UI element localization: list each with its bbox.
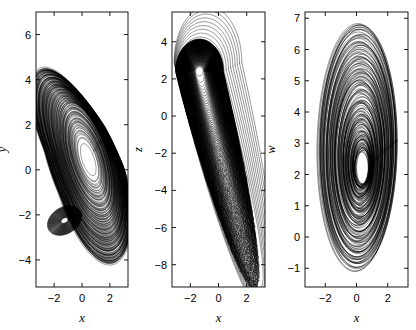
trajectory-segment (32, 70, 130, 260)
trajectory-segment (55, 97, 116, 223)
trajectory-segment (63, 107, 112, 210)
trajectory-segment (192, 62, 212, 115)
trajectory-segment (52, 210, 77, 232)
trajectory-segment (30, 67, 131, 265)
trajectory-segment (354, 150, 369, 187)
panel-xz-svg: −202420−2−4−6−8xz (0, 0, 416, 330)
trajectory-segment (331, 66, 386, 237)
trajectory-segment (176, 40, 259, 286)
trajectory-segment (324, 34, 396, 259)
trajectory-segment (188, 56, 224, 158)
trajectory-segment (343, 111, 377, 211)
trajectory-segment (344, 114, 375, 205)
trajectory-segment (59, 102, 114, 217)
trajectory-segment (348, 131, 371, 197)
trajectory-segment (177, 37, 265, 292)
trajectory-segment (70, 122, 106, 195)
panel-xz-x-axis-label: x (215, 311, 222, 325)
trajectory-segment (332, 68, 388, 241)
trajectory-segment (190, 60, 216, 132)
trajectory-segment (182, 48, 240, 219)
trajectory-segment (185, 52, 234, 195)
trajectory-segment (188, 57, 222, 154)
trajectory-segment (180, 45, 246, 240)
trajectory-segment (332, 71, 385, 235)
trajectory-segment (178, 43, 252, 262)
trajectory-segment (179, 43, 251, 257)
x-tick-label: −2 (319, 292, 332, 304)
trajectory-segment (72, 126, 105, 193)
x-tick-label: 0 (215, 292, 221, 304)
trajectory-segment (49, 90, 120, 232)
trajectory-segment (188, 56, 225, 161)
trajectory-segment (351, 131, 374, 195)
trajectory-segment (346, 122, 374, 202)
trajectory-segment (187, 55, 226, 167)
trajectory-segment (71, 124, 105, 194)
trajectory-segment (75, 133, 101, 185)
trajectory-segment (47, 87, 123, 238)
trajectory-segment (187, 56, 225, 164)
trajectory-segment (68, 119, 106, 199)
trajectory-segment (177, 41, 255, 272)
trajectory-segment (346, 116, 376, 203)
trajectory-segment (355, 145, 372, 189)
x-tick-label: −2 (48, 292, 61, 304)
trajectory-segment (46, 85, 123, 239)
trajectory-segment (181, 47, 242, 228)
trajectory-segment (54, 96, 118, 225)
trajectory-segment (50, 208, 78, 232)
trajectory-segment (189, 58, 219, 142)
trajectory-segment (38, 77, 127, 251)
trajectory-segment (351, 137, 370, 189)
trajectory-segment (32, 70, 130, 262)
trajectory-segment (56, 99, 116, 222)
y-tick-label: 2 (161, 73, 167, 85)
trajectory-segment (47, 206, 81, 236)
trajectory-segment (176, 39, 259, 287)
trajectory-segment (55, 212, 75, 229)
trajectory-segment (75, 132, 102, 187)
x-tick-label: 2 (385, 292, 391, 304)
trajectory-segment (49, 207, 81, 235)
trajectory-segment (176, 39, 260, 289)
trajectory-segment (181, 47, 243, 230)
trajectory-segment (333, 72, 387, 238)
trajectory-segment (43, 83, 124, 243)
trajectory-segment (44, 84, 124, 242)
trajectory-segment (180, 45, 248, 247)
trajectory-segment (180, 45, 248, 246)
trajectory-segment (43, 83, 124, 243)
trajectory-segment (189, 58, 220, 146)
trajectory-segment (182, 48, 240, 220)
trajectory-segment (184, 51, 235, 199)
trajectory-segment (44, 84, 123, 241)
trajectory-segment (176, 40, 257, 280)
trajectory-segment (340, 91, 382, 219)
trajectory-segment (65, 111, 111, 206)
x-tick-label: 0 (79, 292, 85, 304)
trajectory-segment (181, 46, 245, 235)
trajectory-segment (177, 41, 255, 273)
trajectory-segment (67, 116, 108, 202)
trajectory-segment (349, 128, 374, 197)
trajectory-segment (49, 89, 121, 233)
trajectory-segment (352, 145, 369, 191)
trajectory-segment (188, 56, 224, 159)
trajectory-segment (345, 115, 377, 209)
trajectory-segment (335, 73, 388, 235)
trajectory-segment (328, 57, 389, 247)
trajectory-segment (336, 85, 381, 223)
trajectory-segment (352, 135, 373, 193)
trajectory-segment (186, 54, 228, 177)
trajectory-segment (63, 108, 112, 211)
trajectory-segment (47, 87, 122, 237)
panel-xw-x-axis-label: x (353, 311, 360, 325)
trajectory-segment (56, 213, 73, 228)
trajectory-segment (323, 41, 393, 258)
trajectory-segment (182, 48, 241, 221)
y-tick-label: 4 (25, 74, 31, 86)
trajectory-segment (178, 42, 253, 263)
trajectory-segment (52, 93, 119, 228)
trajectory-segment (55, 213, 73, 229)
